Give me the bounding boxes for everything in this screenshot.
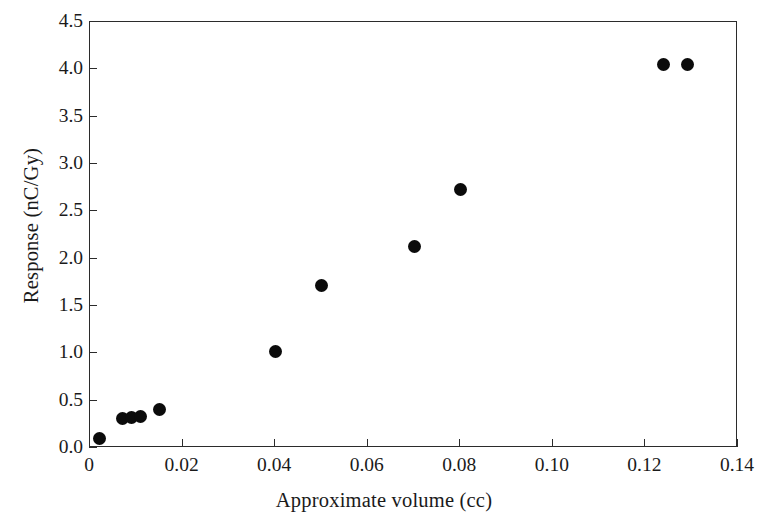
x-tick-mark — [89, 439, 90, 447]
y-axis-title: Response (nC/Gy) — [20, 61, 43, 391]
data-point — [93, 432, 106, 445]
y-tick-mark — [89, 352, 97, 353]
x-tick-mark — [274, 439, 275, 447]
x-tick-label: 0.14 — [720, 455, 754, 475]
data-point — [408, 240, 421, 253]
x-tick-mark — [367, 439, 368, 447]
x-tick-label: 0.02 — [165, 455, 199, 475]
x-tick-label: 0.10 — [535, 455, 569, 475]
x-tick-mark — [552, 439, 553, 447]
data-point — [269, 345, 282, 358]
data-point — [454, 183, 467, 196]
x-tick-label: 0 — [84, 455, 94, 475]
data-point — [153, 403, 166, 416]
y-tick-mark — [89, 305, 97, 306]
y-tick-mark — [89, 400, 97, 401]
x-tick-label: 0.12 — [627, 455, 661, 475]
x-tick-mark — [182, 439, 183, 447]
x-tick-label: 0.04 — [257, 455, 291, 475]
data-point — [681, 58, 694, 71]
y-tick-label: 4.5 — [0, 11, 83, 31]
x-tick-label: 0.06 — [350, 455, 384, 475]
y-tick-mark — [89, 21, 97, 22]
x-tick-mark — [644, 439, 645, 447]
data-point — [315, 279, 328, 292]
x-axis-title: Approximate volume (cc) — [0, 489, 768, 512]
y-tick-mark — [89, 258, 97, 259]
y-tick-label: 0.0 — [0, 437, 83, 457]
scatter-chart-figure: 0.00.51.01.52.02.53.03.54.04.5 00.020.04… — [0, 0, 768, 529]
y-tick-mark — [89, 116, 97, 117]
x-tick-mark — [737, 439, 738, 447]
data-point — [657, 58, 670, 71]
x-tick-mark — [459, 439, 460, 447]
y-tick-mark — [89, 447, 97, 448]
plot-area — [89, 21, 737, 447]
y-tick-mark — [89, 210, 97, 211]
x-tick-label: 0.08 — [442, 455, 476, 475]
data-point — [134, 410, 147, 423]
y-tick-mark — [89, 68, 97, 69]
y-tick-label: 0.5 — [0, 390, 83, 410]
y-tick-mark — [89, 163, 97, 164]
